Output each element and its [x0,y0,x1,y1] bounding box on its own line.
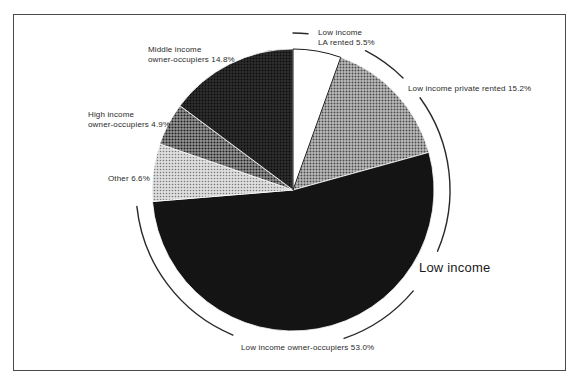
slice-label-line: Middle income [148,45,235,55]
slice-label-line: LA rented 5.5% [318,38,375,48]
label-low-income-private-rented: Low income private rented 15.2% [408,84,531,94]
slice-label-line: Other 6.6% [108,174,150,184]
label-other: Other 6.6% [108,174,150,184]
slice-label-line: owner-occupiers 14.8% [148,55,235,65]
slice-label-line: High income [88,110,170,120]
label-low-income-owner-occupiers: Low income owner-occupiers 53.0% [241,343,374,353]
label-low-income-la-rented: Low income LA rented 5.5% [318,28,375,48]
figure-canvas: Low income LA rented 5.5% Low income pri… [0,0,576,384]
slice-label-line: owner-occupiers 4.9% [88,120,170,130]
slice-label-line: Low income private rented 15.2% [408,84,531,94]
group-label-low-income: Low income [419,263,490,273]
group-arc-segment [293,33,308,34]
label-high-income-owner-occupiers: High income owner-occupiers 4.9% [88,110,170,130]
pie-slices-group [152,49,434,331]
slice-label-line: Low income [318,28,375,38]
pie-chart-svg [0,0,576,384]
label-middle-income-owner-occupiers: Middle income owner-occupiers 14.8% [148,45,235,65]
slice-label-line: Low income owner-occupiers 53.0% [241,343,374,353]
